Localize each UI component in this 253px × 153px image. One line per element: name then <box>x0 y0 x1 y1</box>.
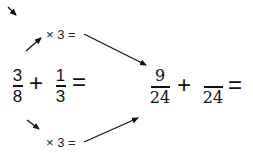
fraction-three-eighths: 3 8 <box>12 67 23 105</box>
fraction-nine-twentyfourths: 9 24 <box>150 68 170 106</box>
equals-sign: = <box>72 70 86 94</box>
denominator: 24 <box>150 90 170 106</box>
bottom-multiplier-label: × 3 = <box>46 136 76 149</box>
denominator: 8 <box>13 88 22 105</box>
arrow-denominator-to-bottom-multiplier <box>27 120 39 129</box>
top-multiplier-label: × 3 = <box>46 28 76 41</box>
arrow-denominator-to-top-multiplier <box>26 38 41 51</box>
denominator: 3 <box>56 88 65 105</box>
numerator: 9 <box>155 68 165 84</box>
fraction-one-third: 1 3 <box>55 67 66 105</box>
equals-sign: = <box>228 73 242 97</box>
fraction-blank-twentyfourths: 24 <box>203 68 223 106</box>
denominator: 24 <box>203 90 223 106</box>
numerator: 1 <box>56 67 65 84</box>
arrow-bottom-multiplier-to-result <box>84 118 138 142</box>
plus-operator: + <box>177 73 191 97</box>
numerator: 3 <box>13 67 22 84</box>
top-left-small-arrow <box>8 7 16 15</box>
plus-operator: + <box>29 71 43 95</box>
arrow-top-multiplier-to-result <box>84 34 146 65</box>
